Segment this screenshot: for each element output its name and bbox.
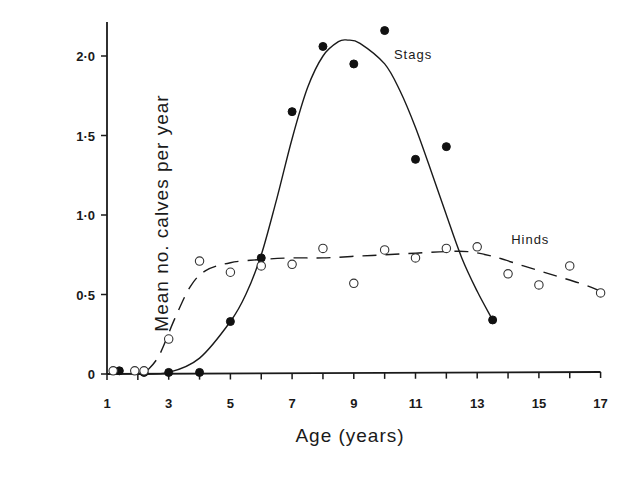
x-tick-label: 17	[593, 396, 607, 411]
y-tick-label: 1·5	[76, 129, 95, 144]
stags-data-point	[226, 318, 234, 326]
stags-data-point	[350, 60, 358, 68]
stags-data-point	[165, 368, 173, 376]
hinds-data-point	[566, 262, 574, 270]
stags-data-point	[288, 108, 296, 116]
stags-data-point	[489, 316, 497, 324]
y-tick-label: 0·5	[76, 288, 95, 303]
hinds-data-point	[226, 268, 234, 276]
stags-data-point	[381, 27, 389, 35]
hinds-data-point	[504, 270, 512, 278]
chart-plot: 00·51·01·52·01357911131517 StagsHinds	[0, 0, 633, 478]
hinds-data-point	[473, 243, 481, 251]
hinds-data-point	[195, 257, 203, 265]
y-axis-label: Mean no. calves per year	[151, 63, 173, 363]
stags-data-point	[257, 254, 265, 262]
hinds-data-point	[596, 289, 604, 297]
hinds-data-point	[257, 262, 265, 270]
fit-curves	[138, 40, 601, 374]
x-tick-label: 15	[532, 396, 546, 411]
x-tick-label: 13	[470, 396, 484, 411]
y-tick-label: 0	[88, 367, 95, 382]
hinds-data-point	[131, 367, 139, 375]
x-tick-label: 11	[409, 396, 423, 411]
y-tick-label: 1·0	[76, 208, 95, 223]
x-tick-label: 7	[288, 396, 295, 411]
x-tick-label: 1	[103, 396, 110, 411]
hinds-data-point	[140, 367, 148, 375]
stags-data-point	[442, 143, 450, 151]
stags-data-point	[196, 368, 204, 376]
stags-data-point	[319, 42, 327, 50]
hinds-series-label: Hinds	[511, 232, 549, 247]
x-axis-label: Age (years)	[225, 425, 475, 447]
stags-fit-curve	[138, 40, 493, 374]
hinds-data-point	[442, 244, 450, 252]
y-tick-label: 2·0	[76, 49, 95, 64]
hinds-data-point	[350, 279, 358, 287]
x-tick-label: 9	[350, 396, 357, 411]
series-labels: StagsHinds	[394, 47, 549, 246]
hinds-data-point	[319, 244, 327, 252]
hinds-data-point	[380, 246, 388, 254]
stags-data-point	[412, 155, 420, 163]
hinds-data-point	[288, 260, 296, 268]
stags-series-label: Stags	[394, 47, 432, 62]
data-points	[109, 27, 605, 377]
hinds-data-point	[109, 367, 117, 375]
x-tick-label: 5	[227, 396, 234, 411]
x-tick-label: 3	[165, 396, 172, 411]
hinds-data-point	[535, 281, 543, 289]
hinds-data-point	[411, 254, 419, 262]
hinds-fit-curve	[147, 251, 600, 371]
